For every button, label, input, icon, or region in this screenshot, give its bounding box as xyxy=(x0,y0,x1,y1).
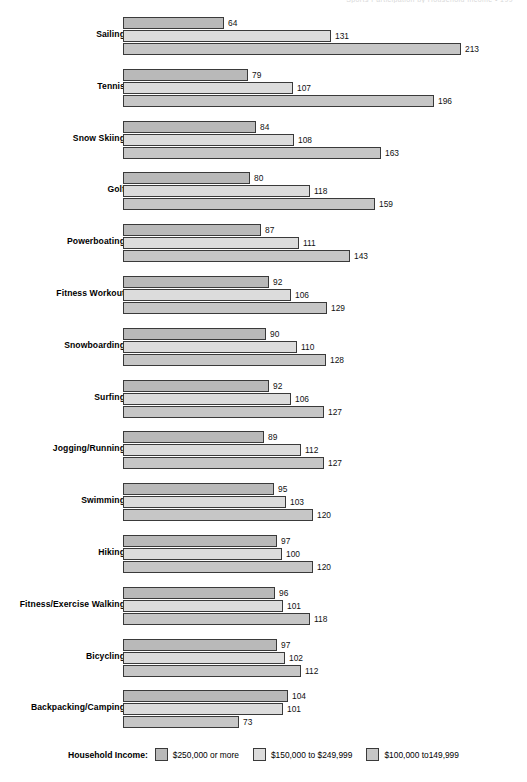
category-label: Tennis xyxy=(3,82,125,91)
bar-value-label: 104 xyxy=(292,691,306,701)
category-label: Jogging/Running xyxy=(3,444,125,453)
bar[interactable] xyxy=(123,147,381,159)
bar-value-label: 90 xyxy=(270,329,279,339)
bar-value-label: 196 xyxy=(438,96,452,106)
category-label: Surfing xyxy=(3,393,125,402)
bar[interactable] xyxy=(123,82,293,94)
bar[interactable] xyxy=(123,496,286,508)
bar[interactable] xyxy=(123,665,301,677)
bar[interactable] xyxy=(123,134,294,146)
bar-value-label: 120 xyxy=(317,510,331,520)
bar[interactable] xyxy=(123,224,261,236)
bar-value-label: 131 xyxy=(335,31,349,41)
bar[interactable] xyxy=(123,406,324,418)
bar-value-label: 101 xyxy=(287,601,301,611)
legend-swatch-icon-2 xyxy=(366,748,379,761)
legend-item-1[interactable]: $150,000 to $249,999 xyxy=(253,748,353,761)
legend-item-2[interactable]: $100,000 to149,999 xyxy=(366,748,459,761)
legend-swatch-icon-1 xyxy=(253,748,266,761)
bar-value-label: 92 xyxy=(273,277,282,287)
bar-value-label: 97 xyxy=(281,640,290,650)
bar-value-label: 80 xyxy=(254,173,263,183)
legend-label-0: $250,000 or more xyxy=(173,750,239,760)
bar-value-label: 106 xyxy=(295,290,309,300)
bar[interactable] xyxy=(123,302,327,314)
bar[interactable] xyxy=(123,43,461,55)
bar[interactable] xyxy=(123,561,313,573)
bar-value-label: 107 xyxy=(297,83,311,93)
bar[interactable] xyxy=(123,703,283,715)
bar-value-label: 108 xyxy=(298,135,312,145)
bar[interactable] xyxy=(123,587,275,599)
running-head: Sports Participation by Household Income… xyxy=(346,0,513,3)
category-label: Hiking xyxy=(3,548,125,557)
bar-value-label: 143 xyxy=(354,251,368,261)
bar[interactable] xyxy=(123,380,269,392)
legend-label-1: $150,000 to $249,999 xyxy=(271,750,353,760)
category-label: Bicycling xyxy=(3,652,125,661)
bar[interactable] xyxy=(123,652,285,664)
bar-value-label: 87 xyxy=(265,225,274,235)
category-label: Golf xyxy=(3,185,125,194)
bar-value-label: 129 xyxy=(331,303,345,313)
bar[interactable] xyxy=(123,185,310,197)
bar-value-label: 96 xyxy=(279,588,288,598)
bar[interactable] xyxy=(123,457,324,469)
bar-value-label: 112 xyxy=(305,666,318,676)
bar[interactable] xyxy=(123,17,224,29)
bar[interactable] xyxy=(123,354,326,366)
category-label: Snowboarding xyxy=(3,341,125,350)
bar-value-label: 101 xyxy=(287,704,301,714)
bar[interactable] xyxy=(123,250,350,262)
bar-value-label: 95 xyxy=(278,484,287,494)
bar-value-label: 89 xyxy=(268,432,277,442)
category-label: Swimming xyxy=(3,496,125,505)
legend-swatch-icon-0 xyxy=(155,748,168,761)
bar[interactable] xyxy=(123,600,283,612)
bar-value-label: 213 xyxy=(465,44,479,54)
bar[interactable] xyxy=(123,393,291,405)
bar-value-label: 92 xyxy=(273,381,282,391)
bar[interactable] xyxy=(123,483,274,495)
legend-item-0[interactable]: $250,000 or more xyxy=(155,748,239,761)
bar-value-label: 128 xyxy=(330,355,344,365)
category-label: Backpacking/Camping xyxy=(3,703,125,712)
bar[interactable] xyxy=(123,95,434,107)
category-label: Fitness Workout xyxy=(3,289,125,298)
bar-value-label: 110 xyxy=(301,342,314,352)
bar[interactable] xyxy=(123,613,310,625)
bar-value-label: 127 xyxy=(328,407,342,417)
category-label: Fitness/Exercise Walking xyxy=(3,600,125,609)
bar[interactable] xyxy=(123,341,297,353)
bar-value-label: 112 xyxy=(305,445,318,455)
bar[interactable] xyxy=(123,690,288,702)
bar[interactable] xyxy=(123,30,331,42)
category-label: Snow Skiing xyxy=(3,134,125,143)
bar[interactable] xyxy=(123,172,250,184)
chart-legend: Household Income: $250,000 or more $150,… xyxy=(0,748,527,761)
category-label: Powerboating xyxy=(3,237,125,246)
bar[interactable] xyxy=(123,535,277,547)
chart-container: Sports Participation by Household Income… xyxy=(0,0,527,782)
bar[interactable] xyxy=(123,716,239,728)
bar-value-label: 97 xyxy=(281,536,290,546)
bar[interactable] xyxy=(123,444,301,456)
bar-value-label: 79 xyxy=(252,70,261,80)
bar[interactable] xyxy=(123,276,269,288)
bar[interactable] xyxy=(123,237,299,249)
bar[interactable] xyxy=(123,121,256,133)
bar[interactable] xyxy=(123,69,248,81)
bar[interactable] xyxy=(123,328,266,340)
bar-value-label: 100 xyxy=(286,549,300,559)
bar[interactable] xyxy=(123,509,313,521)
bar[interactable] xyxy=(123,198,375,210)
bar[interactable] xyxy=(123,548,282,560)
bar-value-label: 64 xyxy=(228,18,237,28)
bar[interactable] xyxy=(123,639,277,651)
bar-value-label: 120 xyxy=(317,562,331,572)
legend-label-2: $100,000 to149,999 xyxy=(384,750,459,760)
bar-value-label: 118 xyxy=(314,186,327,196)
bar[interactable] xyxy=(123,431,264,443)
bar[interactable] xyxy=(123,289,291,301)
bar-value-label: 127 xyxy=(328,458,342,468)
